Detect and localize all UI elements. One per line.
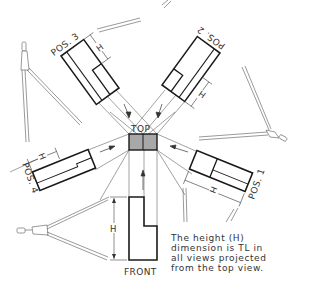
note-line-3: all views projected bbox=[171, 253, 267, 263]
top-view-label: TOP bbox=[130, 124, 150, 134]
front-view: FRONT H bbox=[110, 197, 157, 277]
front-view-label: FRONT bbox=[124, 267, 157, 277]
note-line-2: dimension is TL in bbox=[171, 243, 263, 253]
pos-3-h-dimension: H bbox=[94, 42, 105, 54]
auxiliary-views-diagram: TOP FRONT H H POS. 3 H POS. 2 bbox=[0, 0, 310, 288]
front-h-dimension: H bbox=[110, 224, 116, 234]
top-view: TOP bbox=[129, 124, 157, 150]
note-line-1: The height (H) bbox=[170, 233, 244, 243]
divider-lower-left-icon bbox=[17, 197, 109, 260]
pos-2-view: H POS. 2 bbox=[159, 24, 238, 109]
pos-1-view: H bbox=[183, 150, 252, 206]
explanatory-note: The height (H) dimension is TL in all vi… bbox=[170, 233, 267, 273]
pos-3-view: H POS. 3 bbox=[49, 22, 129, 108]
note-line-4: from the top view. bbox=[171, 263, 264, 273]
